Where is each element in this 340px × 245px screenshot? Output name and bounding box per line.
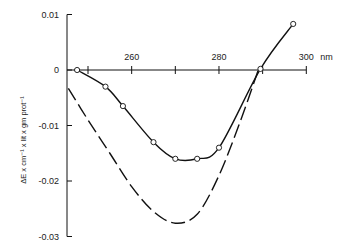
y-tick-label: -0.01 <box>38 121 59 131</box>
x-tick-label: 260 <box>124 52 139 62</box>
y-tick-label: -0.03 <box>38 232 59 242</box>
solid-curve <box>77 24 293 161</box>
data-point-marker <box>258 66 263 71</box>
x-tick-label: 280 <box>211 52 226 62</box>
y-axis-title: ΔE x cm⁻¹ x lit x gm prot⁻¹ <box>19 96 28 184</box>
data-point-marker <box>195 156 200 161</box>
data-point-marker <box>103 84 108 89</box>
dashed-curve <box>68 70 258 223</box>
data-point-marker <box>74 67 79 72</box>
data-point-marker <box>216 145 221 150</box>
data-point-marker <box>173 156 178 161</box>
y-tick-label: -0.02 <box>38 176 59 186</box>
axes <box>67 15 306 237</box>
y-axis-label: ΔE x cm⁻¹ x lit x gm prot⁻¹ <box>19 96 28 184</box>
data-point-marker <box>120 103 125 108</box>
data-point-marker <box>291 21 296 26</box>
x-tick-label: 300 <box>299 52 314 62</box>
tick-labels: 0.010-0.01-0.02-0.03260280300nm <box>38 10 332 242</box>
cd-spectrum-chart: 0.010-0.01-0.02-0.03260280300nm ΔE x cm⁻… <box>0 0 340 245</box>
data-series <box>68 21 295 223</box>
y-tick-label: 0.01 <box>41 10 59 20</box>
x-unit-label: nm <box>320 52 333 62</box>
data-point-marker <box>151 140 156 145</box>
y-tick-label: 0 <box>54 65 59 75</box>
